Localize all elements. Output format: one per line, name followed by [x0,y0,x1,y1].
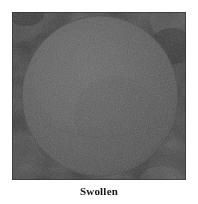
figure-caption: Swollen [0,185,198,198]
figure-panel: Swollen [0,0,198,204]
film-grain [12,12,186,180]
specimen-photograph [12,12,186,180]
photo-canvas [12,12,186,180]
